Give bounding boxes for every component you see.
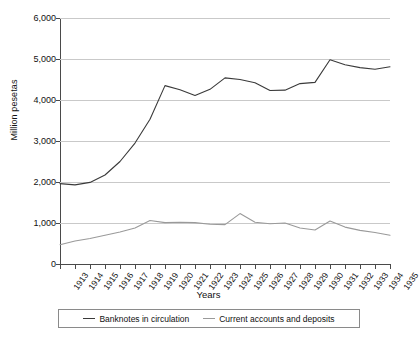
legend-label: Current accounts and deposits bbox=[219, 314, 334, 324]
chart-legend: Banknotes in circulationCurrent accounts… bbox=[58, 309, 360, 328]
x-tick-mark bbox=[225, 265, 226, 269]
x-tick-mark bbox=[210, 265, 211, 269]
x-tick-mark bbox=[60, 265, 61, 269]
y-tick-label: 1,000 bbox=[16, 219, 56, 228]
x-tick-mark bbox=[375, 265, 376, 269]
x-tick-mark bbox=[330, 265, 331, 269]
x-tick-mark bbox=[195, 265, 196, 269]
x-tick-mark bbox=[135, 265, 136, 269]
x-tick-mark bbox=[180, 265, 181, 269]
y-tick-mark bbox=[56, 264, 60, 265]
x-tick-mark bbox=[390, 265, 391, 269]
y-axis-tick-labels: 01,0002,0003,0004,0005,0006,000 bbox=[14, 0, 56, 338]
y-tick-label: 0 bbox=[16, 260, 56, 269]
x-tick-mark bbox=[345, 265, 346, 269]
x-tick-mark bbox=[240, 265, 241, 269]
y-tick-mark bbox=[56, 141, 60, 142]
x-tick-mark bbox=[75, 265, 76, 269]
y-tick-label: 3,000 bbox=[16, 137, 56, 146]
y-tick-label: 6,000 bbox=[16, 14, 56, 23]
y-tick-mark bbox=[56, 223, 60, 224]
y-tick-mark bbox=[56, 59, 60, 60]
legend-line-swatch bbox=[83, 318, 95, 319]
x-tick-mark bbox=[315, 265, 316, 269]
x-tick-mark bbox=[150, 265, 151, 269]
y-tick-mark bbox=[56, 100, 60, 101]
x-tick-mark bbox=[270, 265, 271, 269]
legend-entry[interactable]: Banknotes in circulation bbox=[83, 314, 189, 324]
series-lines bbox=[60, 18, 390, 264]
x-tick-mark bbox=[300, 265, 301, 269]
y-tick-label: 4,000 bbox=[16, 96, 56, 105]
x-tick-mark bbox=[105, 265, 106, 269]
x-tick-mark bbox=[165, 265, 166, 269]
y-axis-title: Million pesetas bbox=[1, 0, 11, 115]
y-tick-label: 2,000 bbox=[16, 178, 56, 187]
series-line bbox=[60, 214, 390, 245]
legend-entry[interactable]: Current accounts and deposits bbox=[203, 314, 334, 324]
legend-line-swatch bbox=[203, 318, 215, 319]
y-tick-mark bbox=[56, 18, 60, 19]
plot-area bbox=[60, 18, 390, 264]
legend-label: Banknotes in circulation bbox=[99, 314, 189, 324]
x-axis-title: Years bbox=[0, 289, 417, 300]
x-tick-mark bbox=[120, 265, 121, 269]
y-tick-label: 5,000 bbox=[16, 55, 56, 64]
series-line bbox=[60, 60, 390, 185]
x-tick-mark bbox=[255, 265, 256, 269]
y-tick-mark bbox=[56, 182, 60, 183]
x-tick-mark bbox=[90, 265, 91, 269]
x-tick-mark bbox=[285, 265, 286, 269]
x-tick-mark bbox=[360, 265, 361, 269]
